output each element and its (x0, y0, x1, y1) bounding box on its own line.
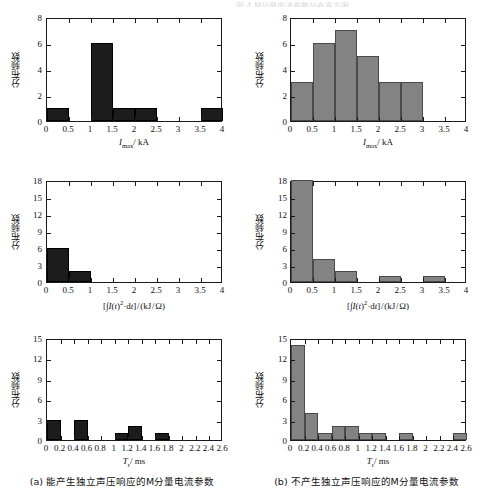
x-tick (169, 436, 170, 440)
histogram-bar (372, 433, 386, 440)
x-axis-title: Tr/ ms (46, 457, 222, 468)
y-tick-right (217, 216, 221, 217)
y-tick (291, 71, 295, 72)
y-tick-label: 9 (20, 228, 42, 237)
x-tick-top (423, 182, 424, 186)
y-tick-label: 6 (265, 40, 287, 49)
y-tick (291, 360, 295, 361)
x-tick (401, 117, 402, 121)
y-tick-right (461, 360, 465, 361)
y-tick (47, 422, 51, 423)
x-tick-top (413, 340, 414, 344)
y-tick-right (461, 216, 465, 217)
y-tick-right (217, 97, 221, 98)
y-tick-label: 6 (265, 396, 287, 405)
y-tick-right (217, 45, 221, 46)
x-tick (69, 117, 70, 121)
x-tick-top (440, 340, 441, 344)
y-axis-title: 分布频数 (8, 372, 21, 408)
x-tick-top (426, 340, 427, 344)
x-tick-label: 2.6 (216, 444, 227, 453)
x-tick-label: 2.2 (433, 444, 444, 453)
y-tick-label: 4 (265, 66, 287, 75)
plot-area (290, 18, 466, 122)
histogram-bar (453, 433, 467, 440)
y-tick-right (217, 422, 221, 423)
x-tick-label: 2.5 (150, 125, 161, 134)
y-tick-label: 9 (265, 228, 287, 237)
y-tick (291, 233, 295, 234)
x-tick (386, 436, 387, 440)
x-tick-top (157, 19, 158, 23)
x-tick-top (359, 340, 360, 344)
x-tick (209, 436, 210, 440)
x-tick (179, 278, 180, 282)
histogram-bar (399, 433, 413, 440)
x-tick-label: 1.5 (350, 286, 361, 295)
histogram-bar (113, 108, 135, 121)
x-tick-label: 0.5 (306, 125, 317, 134)
x-tick-top (401, 19, 402, 23)
y-tick-right (461, 97, 465, 98)
x-tick-label: 2.4 (447, 444, 458, 453)
x-tick-label: 0.6 (325, 444, 336, 453)
x-tick-top (335, 19, 336, 23)
x-tick-top (201, 19, 202, 23)
y-tick (291, 250, 295, 251)
x-tick-top (401, 182, 402, 186)
x-tick-top (142, 340, 143, 344)
x-axis-title: Tr/ ms (290, 457, 466, 468)
x-tick-top (74, 340, 75, 344)
subfigure-caption-b: (b) 不产生独立声压响应的M分量电流参数 (244, 474, 489, 488)
y-axis-title: 分布频数 (8, 214, 21, 250)
y-tick-label: 0 (20, 118, 42, 127)
x-tick-top (128, 340, 129, 344)
panel-bot-left: 00.20.40.60.811.21.41.61.822.22.42.60369… (0, 325, 244, 494)
x-tick (182, 436, 183, 440)
x-tick (426, 436, 427, 440)
x-tick-top (379, 19, 380, 23)
y-tick-right (217, 267, 221, 268)
plot-area (290, 181, 466, 283)
x-tick (357, 278, 358, 282)
subfigure-caption-a: (a) 能产生独立声压响应的M分量电流参数 (0, 474, 244, 488)
x-tick (157, 278, 158, 282)
x-tick-label: 3 (420, 125, 425, 134)
x-tick (88, 436, 89, 440)
histogram-bar (379, 82, 401, 121)
x-tick (445, 117, 446, 121)
x-tick-label: 2 (179, 444, 184, 453)
y-axis-title: 分布频数 (252, 214, 265, 250)
x-tick (101, 436, 102, 440)
y-axis-title: 分布频数 (8, 52, 21, 88)
x-tick (335, 278, 336, 282)
x-tick-label: 3.5 (438, 286, 449, 295)
y-tick-right (217, 71, 221, 72)
panel-bot-right: 00.20.40.60.811.21.41.61.822.22.42.60369… (244, 325, 489, 494)
y-tick-label: 18 (20, 177, 42, 186)
histogram-bar (155, 433, 169, 440)
x-tick-label: 2 (376, 286, 381, 295)
y-tick-right (217, 360, 221, 361)
x-tick (155, 436, 156, 440)
y-tick-label: 15 (20, 335, 42, 344)
histogram-bar (74, 420, 88, 440)
y-tick-label: 9 (265, 375, 287, 384)
x-tick (91, 117, 92, 121)
x-tick (335, 117, 336, 121)
x-tick-top (135, 182, 136, 186)
bar-series (47, 19, 221, 121)
x-tick (128, 436, 129, 440)
y-tick-label: 3 (20, 416, 42, 425)
x-tick-label: 4 (464, 286, 469, 295)
x-tick (113, 278, 114, 282)
x-tick-top (305, 340, 306, 344)
x-tick-label: 0 (288, 125, 293, 134)
x-tick-label: 3 (176, 286, 181, 295)
x-tick-top (379, 182, 380, 186)
x-tick-label: 1 (332, 125, 337, 134)
x-tick (399, 436, 400, 440)
bar-series (291, 182, 465, 282)
y-tick (47, 401, 51, 402)
x-tick-label: 2.5 (150, 286, 161, 295)
